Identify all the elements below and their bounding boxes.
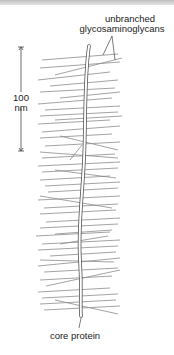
scale-unit: nm xyxy=(8,102,34,113)
core-protein-label: core protein xyxy=(40,330,110,341)
proteoglycan-diagram xyxy=(0,0,174,355)
gag-label-line2: glycosaminoglycans xyxy=(72,23,172,34)
core-protein xyxy=(79,46,89,316)
